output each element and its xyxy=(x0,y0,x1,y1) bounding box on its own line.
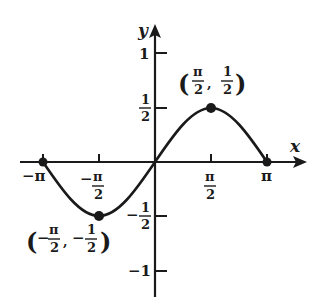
tick-label-neg-half: − 1 2 xyxy=(126,200,151,232)
svg-text:2: 2 xyxy=(87,240,96,255)
svg-text:2: 2 xyxy=(50,240,59,255)
tick-label-neg-pi: −π xyxy=(22,167,46,185)
svg-text:π: π xyxy=(193,64,203,79)
svg-text:(: ( xyxy=(26,227,37,256)
svg-text:1: 1 xyxy=(141,200,150,215)
svg-text:−: − xyxy=(80,170,93,188)
svg-text:,: , xyxy=(207,76,212,91)
tick-label-1: 1 xyxy=(139,45,149,63)
tick-label-half: 1 2 xyxy=(139,92,151,124)
svg-text:π: π xyxy=(93,169,103,184)
svg-text:2: 2 xyxy=(194,82,203,97)
svg-text:): ) xyxy=(100,227,111,256)
tick-label-neg-pi-over-2: − π 2 xyxy=(80,169,104,202)
point-max xyxy=(206,103,216,113)
svg-text:): ) xyxy=(235,69,246,98)
svg-text:1: 1 xyxy=(141,92,150,107)
y-axis-label: y xyxy=(137,20,149,40)
svg-text:π: π xyxy=(205,169,215,184)
point-min xyxy=(94,211,104,221)
svg-text:π: π xyxy=(49,222,59,237)
tick-label-pi: π xyxy=(261,167,272,185)
svg-text:−: − xyxy=(126,206,139,224)
annotation-min: ( − π 2 , − 1 2 ) xyxy=(26,222,111,256)
svg-text:−: − xyxy=(37,229,50,247)
tick-label-pi-over-2: π 2 xyxy=(204,169,216,202)
svg-text:2: 2 xyxy=(94,187,103,202)
svg-text:1: 1 xyxy=(223,64,232,79)
svg-text:2: 2 xyxy=(206,187,215,202)
annotation-max: ( π 2 , 1 2 ) xyxy=(178,64,246,98)
svg-text:−: − xyxy=(72,229,85,247)
point-neg-pi xyxy=(39,158,48,167)
point-pi xyxy=(263,158,272,167)
x-axis-label: x xyxy=(289,136,301,156)
svg-text:(: ( xyxy=(178,69,189,98)
tick-label-neg-1: −1 xyxy=(128,262,151,280)
svg-text:2: 2 xyxy=(141,109,150,124)
svg-text:,: , xyxy=(63,234,68,249)
chart-canvas: x y −π − π 2 π 2 π 1 1 2 − 1 xyxy=(0,0,318,297)
svg-text:2: 2 xyxy=(141,217,150,232)
svg-text:1: 1 xyxy=(87,222,96,237)
svg-text:2: 2 xyxy=(223,82,232,97)
